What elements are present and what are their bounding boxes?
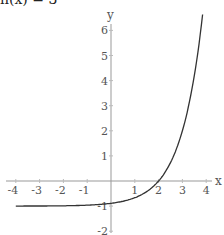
- y-tick-label: 5: [101, 50, 108, 63]
- tick-labels: -4-3-2-11234-2-1123456xy: [7, 8, 222, 235]
- y-tick-label: 1: [101, 150, 108, 163]
- x-tick-label: 1: [131, 184, 138, 197]
- y-tick-label: 4: [101, 75, 108, 88]
- y-tick-label: 6: [101, 24, 108, 37]
- y-tick-label: 2: [101, 125, 108, 138]
- y-tick-label: -2: [97, 225, 108, 235]
- x-tick-label: -4: [7, 184, 18, 197]
- x-tick-label: 4: [203, 184, 210, 197]
- function-curve: [16, 15, 203, 207]
- x-tick-label: 3: [179, 184, 186, 197]
- x-tick-label: -1: [79, 184, 90, 197]
- plot-area: -4-3-2-11234-2-1123456xy: [0, 0, 224, 235]
- y-axis-label: y: [106, 8, 114, 22]
- x-tick-label: -3: [31, 184, 42, 197]
- y-tick-label: -1: [97, 200, 108, 213]
- x-tick-label: -2: [55, 184, 66, 197]
- y-tick-label: 3: [101, 100, 108, 113]
- axes: [6, 24, 212, 233]
- x-tick-label: 2: [155, 184, 162, 197]
- x-axis-label: x: [215, 174, 222, 188]
